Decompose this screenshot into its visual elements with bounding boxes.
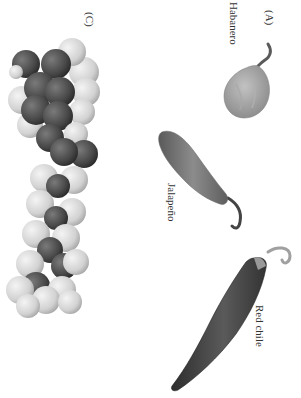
habanero-label: Habanero <box>228 2 240 45</box>
figure: (A) Habanero Jalapeño Red chile (C) <box>0 0 301 398</box>
habanero-pepper <box>224 44 270 118</box>
jalapeno-label: Jalapeño <box>166 183 178 221</box>
molecule-model <box>6 38 100 318</box>
red-chile-label: Red chile <box>254 305 266 347</box>
panel-c-label: (C) <box>84 12 96 27</box>
red-chile-pepper <box>171 248 290 391</box>
panel-a-label: (A) <box>264 10 276 25</box>
